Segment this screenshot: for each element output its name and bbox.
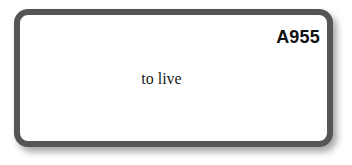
card-text: to live [20, 70, 327, 88]
flash-card: A955 to live [14, 9, 333, 147]
card-code-label: A955 [276, 27, 320, 48]
